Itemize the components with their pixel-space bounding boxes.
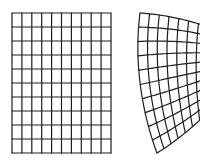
regular-grid xyxy=(12,13,111,153)
warped-line-horizontal xyxy=(157,92,200,153)
warped-grid xyxy=(138,13,200,153)
grid-diagram xyxy=(0,0,200,161)
